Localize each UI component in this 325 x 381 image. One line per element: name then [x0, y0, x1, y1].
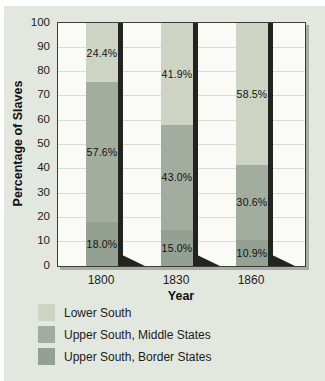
bar-segment-label: 43.0% — [162, 171, 193, 183]
bar-segment-label: 15.0% — [162, 242, 193, 254]
legend-label: Lower South — [64, 306, 131, 320]
chart-panel: Percentage of Slaves 18.0%57.6%24.4%15.0… — [4, 6, 325, 381]
y-tick-label: 20 — [4, 210, 50, 223]
y-tick-label: 100 — [4, 16, 50, 29]
bar-base-shadow-triangle — [268, 253, 295, 266]
legend-swatch — [38, 326, 55, 343]
bar-segment: 30.6% — [236, 165, 268, 239]
bar-segment-label: 57.6% — [87, 146, 118, 158]
bar-segment-label: 30.6% — [237, 196, 268, 208]
y-tick-label: 70 — [4, 88, 50, 101]
bar-segment: 43.0% — [161, 125, 193, 229]
x-tick-label: 1800 — [71, 273, 131, 287]
legend-item: Lower South — [38, 304, 211, 321]
x-axis-title: Year — [121, 289, 241, 303]
y-tick-label: 10 — [4, 234, 50, 247]
bar-segment-label: 41.9% — [162, 68, 193, 80]
bar-segment: 10.9% — [236, 240, 268, 266]
bar-segment-label: 58.5% — [237, 88, 268, 100]
x-tick-label: 1860 — [221, 273, 281, 287]
legend: Lower SouthUpper South, Middle StatesUpp… — [38, 304, 211, 370]
bar-segment-label: 24.4% — [87, 47, 118, 59]
legend-label: Upper South, Middle States — [64, 328, 211, 342]
y-tick-label: 30 — [4, 186, 50, 199]
legend-item: Upper South, Middle States — [38, 326, 211, 343]
bar-segment: 57.6% — [86, 82, 118, 222]
y-tick-label: 50 — [4, 137, 50, 150]
bar-segment: 24.4% — [86, 23, 118, 82]
legend-swatch — [38, 304, 55, 321]
bar-segment: 58.5% — [236, 23, 268, 165]
legend-label: Upper South, Border States — [64, 350, 211, 364]
x-tick-label: 1830 — [146, 273, 206, 287]
legend-item: Upper South, Border States — [38, 348, 211, 365]
bar-segment-label: 10.9% — [237, 247, 268, 259]
legend-swatch — [38, 348, 55, 365]
y-tick-label: 0 — [4, 259, 50, 272]
bar-side-shadow — [268, 23, 273, 266]
bar-segment-label: 18.0% — [87, 238, 118, 250]
bar-segment: 41.9% — [161, 23, 193, 125]
bar-side-shadow — [118, 23, 123, 266]
bar-segment: 15.0% — [161, 230, 193, 266]
bar-segment: 18.0% — [86, 222, 118, 266]
y-tick-label: 90 — [4, 40, 50, 53]
y-tick-label: 60 — [4, 113, 50, 126]
y-tick-label: 80 — [4, 64, 50, 77]
plot-area: 18.0%57.6%24.4%15.0%43.0%41.9%10.9%30.6%… — [57, 22, 306, 267]
y-tick-label: 40 — [4, 161, 50, 174]
bar-side-shadow — [193, 23, 198, 266]
